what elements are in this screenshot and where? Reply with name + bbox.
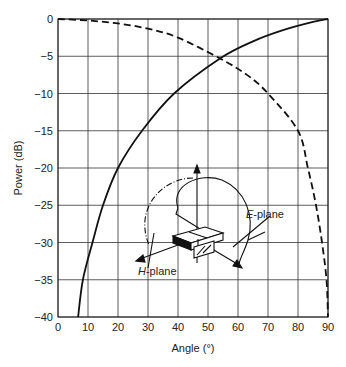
x-tick-label: 50 (202, 321, 214, 333)
x-tick-label: 20 (112, 321, 124, 333)
y-tick-label: −20 (34, 162, 53, 174)
up-arrow-icon (194, 165, 200, 173)
e-plane-label: E-plane (246, 208, 284, 220)
y-tick-labels: 0−5−10−15−20−25−30−35−40 (34, 13, 53, 323)
x-tick-label: 40 (172, 321, 184, 333)
y-axis-label: Power (dB) (12, 140, 24, 195)
grid-lines (58, 19, 328, 317)
y-tick-label: −15 (34, 125, 53, 137)
x-tick-label: 60 (232, 321, 244, 333)
x-tick-label: 70 (262, 321, 274, 333)
x-tick-label: 90 (322, 321, 334, 333)
h-plane-label: H-plane (138, 265, 177, 277)
chart: 0102030405060708090 0−5−10−15−20−25−30−3… (0, 0, 346, 367)
down-right-arrow-icon (233, 260, 242, 268)
x-tick-label: 80 (292, 321, 304, 333)
y-tick-label: −10 (34, 88, 53, 100)
y-tick-label: −25 (34, 199, 53, 211)
y-tick-label: 0 (47, 13, 53, 25)
left-arrow-icon (136, 255, 145, 262)
y-tick-label: −30 (34, 237, 53, 249)
x-axis-label: Angle (°) (172, 342, 215, 354)
x-tick-label: 30 (142, 321, 154, 333)
x-tick-labels: 0102030405060708090 (55, 321, 334, 333)
x-tick-label: 0 (55, 321, 61, 333)
y-tick-label: −35 (34, 274, 53, 286)
y-tick-label: −5 (40, 50, 53, 62)
x-tick-label: 10 (82, 321, 94, 333)
y-tick-label: −40 (34, 311, 53, 323)
